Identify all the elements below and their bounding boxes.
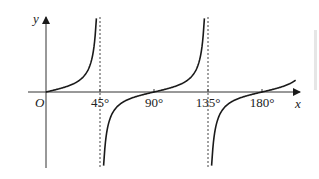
- y-axis-label: y: [31, 11, 39, 26]
- x-tick-label: 135°: [196, 95, 221, 110]
- x-tick-label: 180°: [250, 95, 275, 110]
- origin-label: O: [35, 95, 45, 110]
- curve-branch-3: [212, 80, 296, 165]
- x-axis-label: x: [294, 96, 301, 111]
- curve-branch-1: [46, 18, 96, 92]
- page-edge: [314, 30, 317, 90]
- x-tick-labels: 45°90°135°180°: [91, 95, 274, 110]
- x-tick-label: 45°: [91, 95, 109, 110]
- tan-graph: y x O 45°90°135°180°: [0, 0, 319, 179]
- x-tick-label: 90°: [145, 95, 163, 110]
